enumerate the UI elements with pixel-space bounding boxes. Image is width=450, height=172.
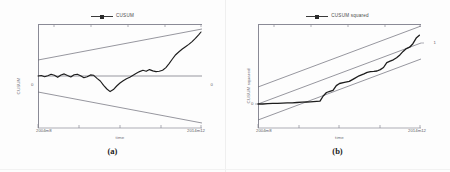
legend-line-marker-icon xyxy=(91,13,113,20)
panel-a-cusum: CUSUM CUSUM xyxy=(0,0,225,172)
y-tick-label-left-a: 0 xyxy=(31,83,33,87)
panel-caption-b: (b) xyxy=(225,146,450,156)
lower-5pct-band-a xyxy=(38,92,202,123)
x-axis-ticks-top-b xyxy=(274,24,420,27)
legend-panel-a: CUSUM xyxy=(0,11,225,22)
panel-caption-a: (a) xyxy=(0,146,225,156)
legend-label-cusum-squared: CUSUM squared xyxy=(331,14,368,19)
y-tick-label-left-b: 0 xyxy=(251,102,253,106)
x-axis-ticks-top-a xyxy=(54,24,201,27)
x-tick-label-left-a: 2004m8 xyxy=(36,129,52,133)
cusum-series-line-a xyxy=(38,32,201,92)
panel-b-cusum-squared: CUSUM squared CUSUM squared xyxy=(225,0,450,172)
y-axis-title-a: CUSUM xyxy=(16,78,21,95)
plot-svg-b xyxy=(258,24,421,128)
plot-area-b xyxy=(258,24,421,128)
lower-5pct-band-b xyxy=(258,59,421,120)
x-axis-title-a: time xyxy=(38,135,202,140)
y-tick-label-right-b: 1 xyxy=(434,41,436,45)
x-tick-label-right-a: 2014m12 xyxy=(187,129,205,133)
y-tick-label-right-a: 0 xyxy=(211,83,213,87)
plot-svg-a xyxy=(38,24,202,128)
reference-line-45-b xyxy=(258,43,421,104)
bottom-rule xyxy=(0,169,450,170)
cusum-squared-series-line-b xyxy=(258,35,419,104)
legend-panel-b: CUSUM squared xyxy=(225,11,450,22)
x-axis-b xyxy=(258,124,421,128)
cusum-stability-figure: CUSUM CUSUM xyxy=(0,0,450,172)
x-tick-label-left-b: 2004m8 xyxy=(256,129,272,133)
upper-5pct-band-b xyxy=(258,26,421,87)
plot-area-a xyxy=(38,24,202,128)
legend-label-cusum: CUSUM xyxy=(116,14,134,19)
legend-line-marker-icon xyxy=(306,13,328,20)
y-axis-title-b: CUSUM squared xyxy=(246,68,251,103)
x-axis-title-b: time xyxy=(258,135,421,140)
x-axis-a xyxy=(38,124,202,128)
x-tick-label-right-b: 2014m12 xyxy=(408,129,426,133)
upper-5pct-band-a xyxy=(38,29,202,60)
